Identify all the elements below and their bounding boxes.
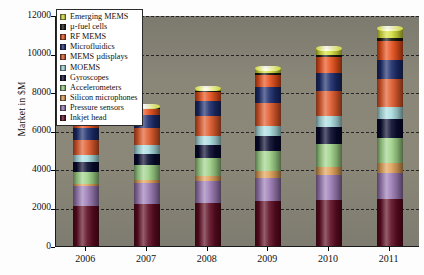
segment-shading: [134, 145, 160, 153]
bar-segment: [377, 138, 403, 163]
x-tick-mark: [85, 247, 86, 251]
segment-shading: [255, 178, 281, 202]
bar-segment: [134, 145, 160, 153]
legend-item[interactable]: Accelerometers: [60, 83, 138, 93]
bar-segment: [134, 183, 160, 204]
bar-segment: [377, 41, 403, 60]
segment-shading: [134, 183, 160, 204]
segment-shading: [195, 145, 221, 158]
bar-segment: [377, 163, 403, 173]
legend-swatch-icon: [60, 24, 66, 30]
y-tick-label: 10000: [5, 49, 51, 59]
bar-segment: [377, 29, 403, 38]
x-tick-label: 2009: [237, 253, 297, 264]
legend-item[interactable]: Emerging MEMS: [60, 12, 138, 22]
bar-segment: [134, 204, 160, 246]
legend-swatch-icon: [60, 85, 66, 91]
legend-item[interactable]: MEMS µdisplays: [60, 52, 138, 62]
segment-shading: [377, 173, 403, 200]
segment-shading: [255, 87, 281, 103]
segment-shading: [73, 186, 99, 205]
bar-segment: [195, 203, 221, 246]
y-tick-label: 0: [5, 242, 51, 252]
segment-shading: [73, 128, 99, 140]
segment-shading: [377, 79, 403, 107]
legend-item-label: MEMS µdisplays: [70, 52, 128, 62]
segment-shading: [316, 116, 342, 127]
bar-segment: [255, 136, 281, 151]
bar-segment: [134, 154, 160, 166]
segment-shading: [316, 57, 342, 73]
x-tick-mark: [207, 247, 208, 251]
legend-swatch-icon: [60, 44, 66, 50]
segment-shading: [377, 138, 403, 163]
legend-item[interactable]: Inkjet head: [60, 113, 138, 123]
bar-segment: [377, 199, 403, 246]
bar-segment: [195, 101, 221, 115]
bar-segment: [377, 107, 403, 119]
segment-shading: [195, 116, 221, 136]
segment-shading: [73, 162, 99, 172]
legend-item[interactable]: Silicon microphones: [60, 93, 138, 103]
gridline: [56, 132, 419, 133]
x-tick-label: 2007: [116, 253, 176, 264]
bar-2011: [377, 29, 403, 246]
segment-shading: [255, 201, 281, 246]
segment-shading: [255, 151, 281, 171]
bar-segment: [255, 75, 281, 88]
segment-shading: [316, 167, 342, 175]
bar-segment: [195, 116, 221, 136]
bar-segment: [73, 186, 99, 205]
legend-item-label: Accelerometers: [70, 83, 121, 93]
segment-shading: [195, 136, 221, 145]
segment-shading: [195, 203, 221, 246]
segment-shading: [195, 181, 221, 203]
legend-swatch-icon: [60, 115, 66, 121]
bar-segment: [316, 167, 342, 175]
segment-shading: [377, 29, 403, 38]
segment-shading: [316, 127, 342, 144]
legend-item[interactable]: µ-fuel cells: [60, 22, 138, 32]
legend-item[interactable]: MOEMS: [60, 62, 138, 72]
bar-segment: [255, 103, 281, 126]
bar-segment: [73, 162, 99, 172]
bar-2008: [195, 88, 221, 246]
segment-shading: [73, 206, 99, 246]
bar-segment: [195, 158, 221, 175]
legend-item-label: Microfluidics: [70, 42, 115, 52]
x-tick-mark: [328, 247, 329, 251]
bar-segment: [195, 181, 221, 203]
segment-shading: [134, 128, 160, 145]
legend-item-label: Inkjet head: [70, 113, 107, 123]
legend-swatch-icon: [60, 14, 66, 20]
bar-segment: [316, 73, 342, 90]
segment-shading: [195, 92, 221, 101]
segment-shading: [377, 107, 403, 119]
segment-shading: [255, 75, 281, 88]
legend-item[interactable]: Gyroscopes: [60, 73, 138, 83]
segment-shading: [377, 199, 403, 246]
legend-item[interactable]: Microfluidics: [60, 42, 138, 52]
bar-segment: [316, 91, 342, 116]
bar-segment: [377, 60, 403, 79]
bar-segment: [377, 119, 403, 137]
y-tick-label: 12000: [5, 11, 51, 21]
segment-shading: [255, 136, 281, 151]
segment-shading: [377, 119, 403, 137]
legend-swatch-icon: [60, 105, 66, 111]
y-tick-label: 2000: [5, 203, 51, 213]
y-axis: 020004000600080001000012000: [0, 0, 51, 275]
bar-2009: [255, 68, 281, 246]
bar-segment: [255, 178, 281, 202]
legend-item[interactable]: Pressure sensors: [60, 103, 138, 113]
bar-segment: [377, 79, 403, 107]
legend-swatch-icon: [60, 34, 66, 40]
x-tick-mark: [146, 247, 147, 251]
legend-swatch-icon: [60, 75, 66, 81]
bar-segment: [316, 57, 342, 73]
legend: Emerging MEMSµ-fuel cellsRF MEMSMicroflu…: [56, 9, 143, 126]
x-axis: 200620072008200920102011: [55, 247, 419, 275]
legend-item[interactable]: RF MEMS: [60, 32, 138, 42]
bar-segment: [195, 136, 221, 145]
segment-shading: [255, 103, 281, 126]
